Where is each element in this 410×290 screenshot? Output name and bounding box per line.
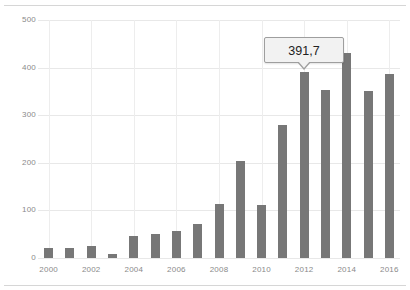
gridline-x-2006 xyxy=(176,20,177,258)
bar-2016[interactable] xyxy=(385,74,394,258)
y-tick-label: 300 xyxy=(6,111,36,119)
gridline-y-0 xyxy=(38,258,400,259)
y-tick-label: 400 xyxy=(6,64,36,72)
y-tick-label: 500 xyxy=(6,16,36,24)
y-tick-label: 200 xyxy=(6,159,36,167)
gridline-x-2000 xyxy=(49,20,50,258)
bar-2000[interactable] xyxy=(44,248,53,258)
x-tick-label: 2000 xyxy=(29,266,69,274)
x-tick-label: 2016 xyxy=(369,266,409,274)
tooltip-pointer-fill xyxy=(298,61,310,68)
gridline-x-2002 xyxy=(91,20,92,258)
x-tick-label: 2006 xyxy=(156,266,196,274)
bar-2006[interactable] xyxy=(172,231,181,258)
bar-2009[interactable] xyxy=(236,161,245,258)
bar-2002[interactable] xyxy=(87,246,96,258)
top-divider xyxy=(4,5,406,6)
bar-2013[interactable] xyxy=(321,90,330,258)
gridline-x-2004 xyxy=(134,20,135,258)
bar-2011[interactable] xyxy=(278,125,287,258)
plot-area xyxy=(38,20,400,258)
x-tick-label: 2012 xyxy=(284,266,324,274)
bar-2005[interactable] xyxy=(151,234,160,258)
x-tick-label: 2004 xyxy=(114,266,154,274)
y-tick-label: 100 xyxy=(6,206,36,214)
bar-2007[interactable] xyxy=(193,224,202,258)
bar-2004[interactable] xyxy=(129,236,138,258)
y-tick-label: 0 xyxy=(6,254,36,262)
bar-2001[interactable] xyxy=(65,248,74,258)
x-tick-label: 2014 xyxy=(327,266,367,274)
bar-2012[interactable] xyxy=(300,72,309,258)
x-tick-label: 2010 xyxy=(242,266,282,274)
bar-2010[interactable] xyxy=(257,205,266,258)
value-tooltip: 391,7 xyxy=(264,37,344,63)
bottom-divider xyxy=(4,285,406,286)
x-tick-label: 2002 xyxy=(71,266,111,274)
bar-2008[interactable] xyxy=(215,204,224,258)
bar-2015[interactable] xyxy=(364,91,373,258)
bar-2003[interactable] xyxy=(108,254,117,258)
bar-2014[interactable] xyxy=(342,53,351,258)
x-tick-label: 2008 xyxy=(199,266,239,274)
bar-chart: 0100200300400500 20002002200420062008201… xyxy=(0,0,410,290)
